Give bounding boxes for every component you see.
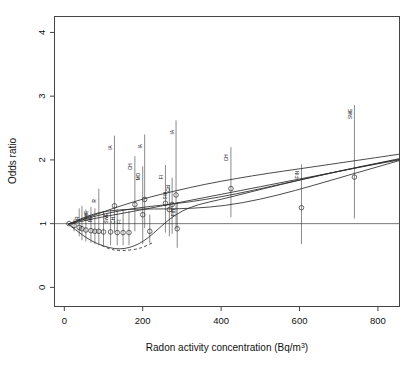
study-label: SWE — [104, 213, 109, 223]
dose-response-plot: RSWENORSWEIACHFICHMOIAFISWCHIAFINCHFINSW… — [0, 0, 413, 371]
study-label: CH — [166, 185, 171, 192]
study-label: FI — [159, 175, 164, 179]
study-label: NO — [88, 215, 93, 222]
y-axis-title: Odds ratio — [7, 137, 18, 184]
study-label: CH — [128, 163, 133, 170]
study-label: MO — [136, 172, 141, 180]
y-tick-label: 1 — [37, 221, 48, 226]
y-tick-label: 2 — [36, 157, 47, 162]
study-label: FI — [117, 220, 122, 224]
x-tick-label: 400 — [213, 315, 229, 326]
x-axis-title: Radon activity concentration (Bq/m3) — [146, 342, 308, 354]
plot-canvas: RSWENORSWEIACHFICHMOIAFISWCHIAFINCHFINSW… — [0, 0, 413, 371]
figure-root: RSWENORSWEIACHFICHMOIAFISWCHIAFINCHFINSW… — [0, 0, 413, 371]
y-tick-label: 3 — [37, 94, 48, 99]
study-label: FIN — [171, 209, 176, 216]
x-tick-label: 600 — [292, 315, 308, 326]
y-tick-label: 4 — [37, 30, 48, 35]
x-tick-label: 200 — [135, 315, 151, 326]
x-tick-label: 800 — [370, 315, 386, 326]
study-label: SWE — [348, 109, 353, 119]
x-tick-label: 0 — [62, 315, 67, 326]
study-label: CH — [224, 155, 229, 162]
y-tick-label: 0 — [36, 285, 47, 290]
study-label: FIN — [295, 171, 300, 178]
study-label: CH — [111, 217, 116, 224]
